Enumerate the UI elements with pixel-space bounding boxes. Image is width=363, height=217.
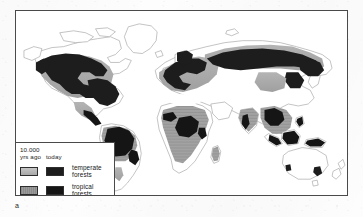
forest-cover-figure: 10.000 yrs ago today temperate forests — [0, 0, 363, 217]
legend-swatch-temperate-present — [46, 167, 64, 176]
legend-label-tropical-line2: forests — [72, 190, 93, 196]
region-tasmania — [312, 180, 318, 186]
legend-label-tropical-line1: tropical — [72, 183, 93, 191]
legend-column-headers: yrs ago today — [20, 153, 114, 160]
legend-column-header-old: yrs ago — [20, 153, 46, 160]
forest-present-australia-southwest — [285, 164, 291, 171]
legend-swatch-tropical-historic — [20, 186, 38, 195]
map-legend: 10.000 yrs ago today temperate forests — [16, 142, 115, 196]
legend-title: 10.000 — [20, 146, 114, 153]
legend-row-tropical: tropical forests — [20, 181, 114, 196]
legend-column-header-new: today — [46, 153, 76, 160]
world-map-frame: 10.000 yrs ago today temperate forests — [15, 10, 348, 196]
legend-label-tropical: tropical forests — [72, 183, 93, 196]
legend-entries: temperate forests tropical forests — [20, 162, 114, 196]
legend-swatch-tropical-present — [46, 186, 64, 195]
legend-label-temperate-line2: forests — [72, 171, 102, 179]
legend-label-temperate-line1: temperate — [72, 164, 102, 172]
panel-caption: a — [15, 202, 19, 209]
legend-row-temperate: temperate forests — [20, 162, 114, 181]
legend-label-temperate: temperate forests — [72, 164, 102, 179]
legend-swatch-temperate-historic — [20, 167, 38, 176]
